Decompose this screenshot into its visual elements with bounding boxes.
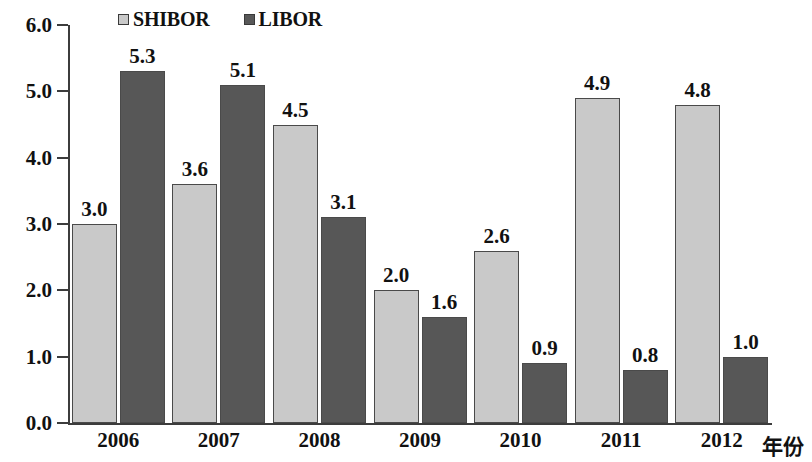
bar-shibor-2011 [575, 98, 620, 423]
y-axis-tick [57, 289, 68, 291]
y-axis-tick-label: 6.0 [0, 15, 52, 36]
y-axis-tick-label: 1.0 [0, 346, 52, 367]
bar-shibor-2008 [273, 125, 318, 424]
bar-shibor-2006 [72, 224, 117, 423]
x-axis-label-2012: 2012 [671, 430, 772, 451]
bar-value-label: 1.0 [717, 332, 774, 353]
bar-shibor-2009 [374, 290, 419, 423]
bar-libor-2010 [522, 363, 567, 423]
x-axis-label-2008: 2008 [269, 430, 370, 451]
y-axis-tick-label: 4.0 [0, 147, 52, 168]
y-axis-tick-label: 2.0 [0, 280, 52, 301]
bar-libor-2006 [120, 71, 165, 423]
y-axis-tick [57, 223, 68, 225]
x-axis-label-2011: 2011 [571, 430, 672, 451]
x-axis-title: 年份 [762, 430, 804, 460]
bar-value-label: 3.6 [166, 159, 223, 180]
bar-shibor-2010 [474, 251, 519, 423]
x-axis-label-2007: 2007 [169, 430, 270, 451]
y-axis-tick [57, 422, 68, 424]
bar-value-label: 2.6 [468, 226, 525, 247]
bar-value-label: 5.3 [114, 46, 171, 67]
bar-libor-2007 [220, 85, 265, 423]
plot-area: 3.05.33.65.14.53.12.01.62.60.94.90.84.81… [68, 25, 772, 423]
y-axis-tick [57, 90, 68, 92]
y-axis-tick [57, 356, 68, 358]
bar-value-label: 5.1 [214, 60, 271, 81]
bar-value-label: 1.6 [416, 292, 473, 313]
y-axis-tick [57, 24, 68, 26]
bar-value-label: 0.8 [617, 345, 674, 366]
x-axis-label-2009: 2009 [370, 430, 471, 451]
bar-chart: SHIBOR LIBOR 0.01.02.03.04.05.06.0 3.05.… [0, 0, 812, 462]
x-axis-label-2006: 2006 [68, 430, 169, 451]
bar-libor-2008 [321, 217, 366, 423]
bar-value-label: 0.9 [516, 338, 573, 359]
bar-libor-2011 [623, 370, 668, 423]
y-axis-tick [57, 157, 68, 159]
bar-libor-2009 [422, 317, 467, 423]
bar-value-label: 3.1 [315, 192, 372, 213]
bar-value-label: 3.0 [66, 199, 123, 220]
x-axis-line [68, 423, 772, 425]
bar-value-label: 2.0 [368, 265, 425, 286]
bar-shibor-2007 [172, 184, 217, 423]
legend-swatch-libor-icon [244, 14, 255, 25]
y-axis-tick-label: 0.0 [0, 413, 52, 434]
bar-value-label: 4.8 [669, 80, 726, 101]
y-axis-tick-label: 3.0 [0, 214, 52, 235]
bar-value-label: 4.9 [569, 73, 626, 94]
bar-libor-2012 [723, 357, 768, 423]
x-axis-label-2010: 2010 [470, 430, 571, 451]
bar-value-label: 4.5 [267, 100, 324, 121]
bar-shibor-2012 [675, 105, 720, 423]
legend-swatch-shibor-icon [118, 14, 129, 25]
y-axis-tick-label: 5.0 [0, 81, 52, 102]
